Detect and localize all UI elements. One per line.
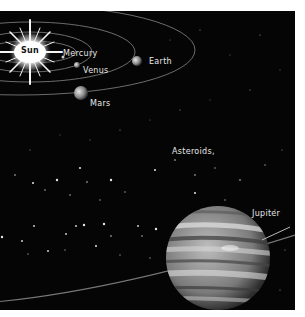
jupiter-planet — [160, 206, 290, 310]
venus-planet — [74, 62, 80, 68]
sun-label: Sun — [21, 46, 39, 55]
asteroids-label: Asteroids, — [172, 147, 215, 156]
earth-label: Earth — [149, 57, 172, 66]
scene-graphics — [0, 11, 295, 310]
mercury-label: Mercury — [63, 49, 98, 58]
venus-label: Venus — [83, 66, 109, 75]
solar-system-illustration: Sun Mercury Venus Earth Mars Asteroids, … — [0, 11, 295, 310]
earth-planet — [132, 56, 142, 66]
mars-label: Mars — [90, 99, 110, 108]
jupiter-label: Jupiter — [252, 209, 280, 218]
mars-planet — [74, 86, 88, 100]
